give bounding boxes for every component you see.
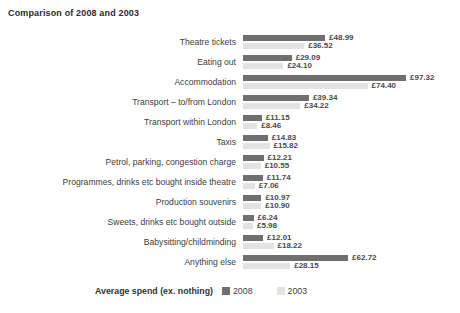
category-bars: £11.74£7.06 <box>243 175 291 189</box>
category-label: Petrol, parking, congestion charge <box>0 157 243 167</box>
bar-line-2003: £36.52 <box>243 43 354 49</box>
chart-row: Programmes, drinks etc bought inside the… <box>0 172 460 192</box>
value-label-2003: £36.52 <box>308 42 332 50</box>
bar-2003 <box>243 123 257 129</box>
bar-line-2003: £24.10 <box>243 63 320 69</box>
legend-label-2003: 2003 <box>288 286 308 296</box>
chart-row: Sweets, drinks etc bought outside£6.24£5… <box>0 212 460 232</box>
bar-line-2003: £7.06 <box>243 183 291 189</box>
value-label-2003: £15.82 <box>274 142 298 150</box>
legend-item-2008: 2008 <box>222 286 253 296</box>
category-bars: £6.24£5.98 <box>243 215 278 229</box>
legend-swatch-2008 <box>222 287 230 295</box>
chart-row: Anything else£62.72£28.15 <box>0 252 460 272</box>
bar-line-2008: £97.32 <box>243 75 434 81</box>
bar-2003 <box>243 243 274 249</box>
category-label: Accommodation <box>0 77 243 87</box>
bar-line-2003: £74.40 <box>243 83 434 89</box>
category-label: Babysitting/childminding <box>0 237 243 247</box>
bar-chart: Comparison of 2008 and 2003 Theatre tick… <box>0 0 460 313</box>
bar-2003 <box>243 163 261 169</box>
category-bars: £29.09£24.10 <box>243 55 320 69</box>
category-bars: £97.32£74.40 <box>243 75 434 89</box>
value-label-2003: £5.98 <box>257 222 277 230</box>
value-label-2003: £10.90 <box>265 202 289 210</box>
category-bars: £11.15£8.46 <box>243 115 290 129</box>
category-label: Theatre tickets <box>0 37 243 47</box>
bar-2003 <box>243 223 253 229</box>
bar-2008 <box>243 215 254 221</box>
chart-row: Theatre tickets£48.99£36.52 <box>0 32 460 52</box>
bar-2003 <box>243 143 270 149</box>
bar-line-2003: £8.46 <box>243 123 290 129</box>
bar-2003 <box>243 263 290 269</box>
chart-row: Transport – to/from London£39.34£34.22 <box>0 92 460 112</box>
bar-line-2003: £5.98 <box>243 223 278 229</box>
chart-row: Eating out£29.09£24.10 <box>0 52 460 72</box>
value-label-2003: £10.55 <box>265 162 289 170</box>
bar-line-2003: £15.82 <box>243 143 298 149</box>
value-label-2003: £28.15 <box>294 262 318 270</box>
bar-2003 <box>243 203 261 209</box>
bar-line-2003: £10.90 <box>243 203 290 209</box>
bar-2008 <box>243 195 261 201</box>
chart-row: Petrol, parking, congestion charge£12.21… <box>0 152 460 172</box>
value-label-2003: £34.22 <box>304 102 328 110</box>
category-bars: £12.21£10.55 <box>243 155 292 169</box>
chart-legend: Average spend (ex. nothing) 2008 2003 <box>95 285 331 297</box>
category-label: Programmes, drinks etc bought inside the… <box>0 177 243 187</box>
bar-2003 <box>243 183 255 189</box>
value-label-2003: £7.06 <box>259 182 279 190</box>
category-label: Production souvenirs <box>0 197 243 207</box>
chart-row: Babysitting/childminding£12.01£18.22 <box>0 232 460 252</box>
legend-item-2003: 2003 <box>277 286 308 296</box>
chart-row: Transport within London£11.15£8.46 <box>0 112 460 132</box>
bar-2003 <box>243 83 368 89</box>
value-label-2008: £62.72 <box>352 254 376 262</box>
legend-label-2008: 2008 <box>233 286 253 296</box>
bar-line-2003: £28.15 <box>243 263 377 269</box>
bar-line-2003: £34.22 <box>243 103 337 109</box>
value-label-2003: £8.46 <box>261 122 281 130</box>
legend-title: Average spend (ex. nothing) <box>95 286 213 296</box>
chart-rows: Theatre tickets£48.99£36.52Eating out£29… <box>0 32 460 272</box>
category-label: Eating out <box>0 57 243 67</box>
category-bars: £39.34£34.22 <box>243 95 337 109</box>
bar-2003 <box>243 103 300 109</box>
bar-2008 <box>243 115 262 121</box>
category-bars: £12.01£18.22 <box>243 235 302 249</box>
category-label: Taxis <box>0 137 243 147</box>
bar-2008 <box>243 235 263 241</box>
bar-2003 <box>243 63 283 69</box>
value-label-2008: £97.32 <box>410 74 434 82</box>
bar-line-2003: £18.22 <box>243 243 302 249</box>
chart-row: Taxis£14.83£15.82 <box>0 132 460 152</box>
bar-line-2003: £10.55 <box>243 163 292 169</box>
category-label: Anything else <box>0 257 243 267</box>
category-bars: £10.97£10.90 <box>243 195 290 209</box>
legend-swatch-2003 <box>277 287 285 295</box>
category-bars: £48.99£36.52 <box>243 35 354 49</box>
bar-2008 <box>243 95 309 101</box>
category-label: Sweets, drinks etc bought outside <box>0 217 243 227</box>
category-label: Transport – to/from London <box>0 97 243 107</box>
chart-row: Accommodation£97.32£74.40 <box>0 72 460 92</box>
chart-title: Comparison of 2008 and 2003 <box>8 8 139 18</box>
value-label-2003: £74.40 <box>372 82 396 90</box>
category-bars: £14.83£15.82 <box>243 135 298 149</box>
value-label-2003: £18.22 <box>278 242 302 250</box>
chart-row: Production souvenirs£10.97£10.90 <box>0 192 460 212</box>
category-bars: £62.72£28.15 <box>243 255 377 269</box>
bar-2008 <box>243 135 268 141</box>
bar-line-2008: £48.99 <box>243 35 354 41</box>
value-label-2003: £24.10 <box>287 62 311 70</box>
bar-2003 <box>243 43 304 49</box>
bar-2008 <box>243 55 292 61</box>
category-label: Transport within London <box>0 117 243 127</box>
bar-2008 <box>243 155 264 161</box>
